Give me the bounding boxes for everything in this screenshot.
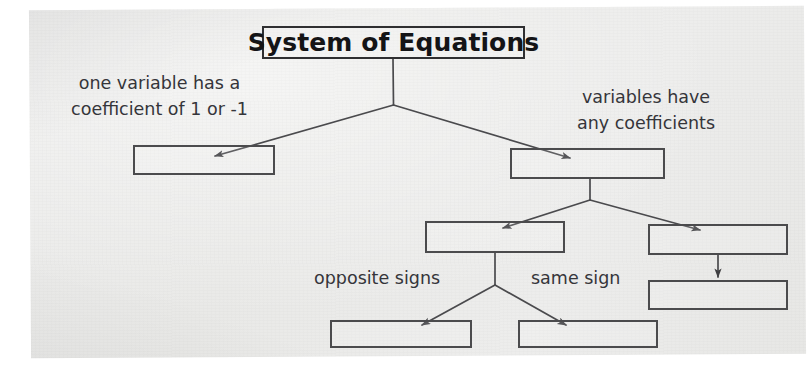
node-box-substitution[interactable] [133,145,275,175]
annotation-same-sign: same sign [531,265,620,291]
screenshot-root: System of Equations one variable has a c… [0,0,812,369]
node-title-label: System of Equations [248,28,540,57]
annotation-line: same sign [531,265,620,291]
node-box-elim-multiply[interactable] [648,224,788,255]
annotation-line: variables have [548,84,744,110]
annotation-left-branch-note: one variable has a coefficient of 1 or -… [52,70,267,122]
node-box-elim-add-subtract[interactable] [425,221,565,253]
node-box-add[interactable] [518,320,658,348]
connector-addsub-to-add [495,285,566,325]
annotation-right-branch-note: variables have any coefficients [548,84,744,136]
annotation-line: any coefficients [548,110,744,136]
connector-title-stem [393,59,394,105]
node-box-subtract[interactable] [330,320,472,348]
node-box-elim-multiply-then[interactable] [648,280,788,310]
annotation-line: coefficient of 1 or -1 [52,96,267,122]
node-box-elimination[interactable] [510,148,665,179]
connector-addsub-to-subtract [422,285,495,325]
annotation-line: opposite signs [314,265,440,291]
node-system-of-equations[interactable]: System of Equations [262,26,525,59]
annotation-line: one variable has a [52,70,267,96]
annotation-opposite-signs: opposite signs [314,265,440,291]
flowchart-diagram: System of Equations one variable has a c… [0,0,812,369]
